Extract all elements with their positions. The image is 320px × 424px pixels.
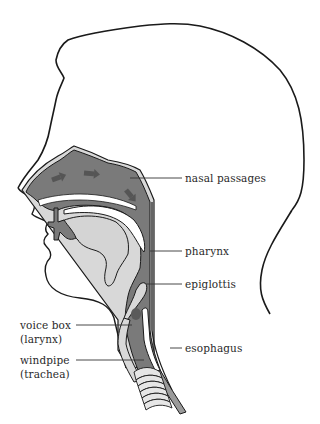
label-windpipe: windpipe — [20, 353, 70, 367]
label-pharynx: pharynx — [185, 244, 229, 258]
label-esophagus: esophagus — [185, 341, 242, 355]
label-nasal-passages: nasal passages — [185, 171, 266, 185]
vocal-cord-spot — [131, 308, 141, 320]
label-larynx: (larynx) — [20, 332, 62, 346]
neck-back-outline — [260, 210, 292, 314]
label-epiglottis: epiglottis — [185, 277, 236, 291]
label-trachea: (trachea) — [20, 367, 70, 381]
label-voice-box: voice box — [20, 318, 71, 332]
